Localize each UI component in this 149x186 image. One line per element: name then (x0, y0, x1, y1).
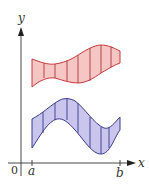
upper-region (32, 45, 120, 87)
lower-region (32, 98, 120, 154)
lower-region-fill (32, 99, 120, 154)
upper-region-fill (32, 45, 120, 87)
y-axis-arrow-icon (18, 27, 24, 36)
area-between-curves-diagram: y x 0 a b (0, 0, 149, 186)
x-axis-label: x (138, 156, 145, 170)
tick-label-b: b (116, 166, 124, 180)
y-axis-label: y (17, 11, 25, 25)
x-axis-arrow-icon (127, 160, 136, 166)
origin-label: 0 (11, 164, 18, 177)
tick-label-a: a (28, 164, 35, 178)
